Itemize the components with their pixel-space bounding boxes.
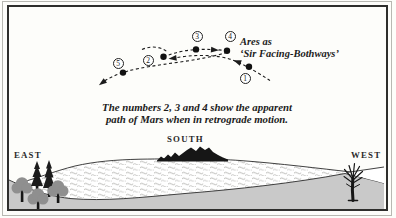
ares-label-line2: ‘Sir Facing-Bothways’ <box>240 48 339 60</box>
caption-line1: The numbers 2, 3 and 4 show the apparent <box>8 101 386 113</box>
figure-caption: The numbers 2, 3 and 4 show the apparent… <box>8 101 386 125</box>
mars-dot-2 <box>160 54 166 60</box>
arrowhead-icon <box>211 47 219 53</box>
mars-dot-3 <box>193 46 199 52</box>
position-badge-3: 3 <box>192 31 203 42</box>
mars-dot-1 <box>246 64 252 70</box>
ares-label-line1: Ares as <box>240 36 339 48</box>
mars-dot-4 <box>224 48 230 54</box>
arrowhead-icon <box>168 55 177 62</box>
mars-path-in <box>174 55 271 80</box>
ares-label: Ares as ‘Sir Facing-Bothways’ <box>240 36 339 59</box>
mars-turn-curl <box>142 47 168 52</box>
mountain-silhouette-icon <box>157 147 228 162</box>
position-badge-4: 4 <box>225 31 236 42</box>
book-figure-page: 1 2 3 4 5 Ares as ‘Sir Facing-Bothways’ … <box>0 0 396 218</box>
mars-dot-5 <box>120 69 126 75</box>
position-badge-5: 5 <box>113 58 124 69</box>
position-badge-2: 2 <box>143 55 154 66</box>
west-label: WEST <box>351 150 381 160</box>
position-badge-1: 1 <box>240 73 251 84</box>
caption-line2: path of Mars when in retrograde motion. <box>8 113 386 125</box>
arrowhead-icon <box>97 78 107 87</box>
south-label: SOUTH <box>167 134 204 144</box>
east-label: EAST <box>14 150 42 160</box>
